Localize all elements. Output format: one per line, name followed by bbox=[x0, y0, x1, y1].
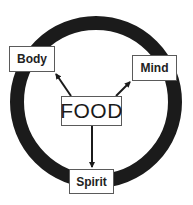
node-food-center: FOOD bbox=[61, 96, 122, 126]
node-mind: Mind bbox=[132, 55, 177, 81]
node-body-label: Body bbox=[17, 52, 47, 66]
food-cycle-diagram: Body Mind FOOD Spirit bbox=[0, 0, 193, 205]
node-body: Body bbox=[9, 46, 55, 72]
arrow-food-to-body bbox=[56, 74, 71, 96]
node-mind-label: Mind bbox=[141, 61, 169, 75]
node-spirit-label: Spirit bbox=[76, 175, 107, 189]
arrow-food-to-mind bbox=[116, 82, 130, 96]
node-spirit: Spirit bbox=[69, 169, 114, 194]
node-food-label: FOOD bbox=[60, 99, 123, 123]
